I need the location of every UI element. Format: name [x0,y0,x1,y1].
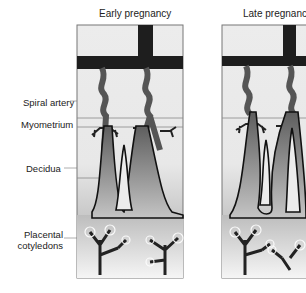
panel-late [222,25,306,278]
panel-early [77,25,183,278]
placenta-diagram [0,0,306,293]
